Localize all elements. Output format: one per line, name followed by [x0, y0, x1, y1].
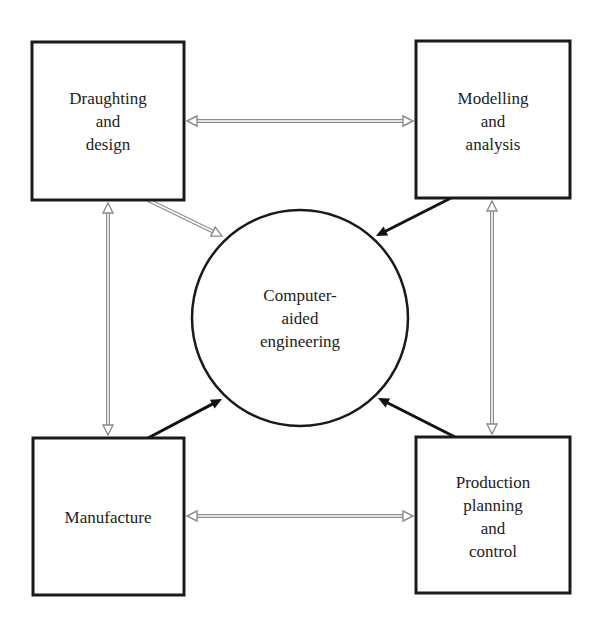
arrow-manufacture-to-production: [187, 511, 413, 521]
label-line: and: [96, 112, 121, 131]
label-line: Production: [456, 473, 531, 492]
label-line: planning: [463, 496, 523, 515]
arrow-draughting-to-manufacture: [103, 203, 113, 435]
arrow-head-hollow: [403, 511, 413, 521]
node-computer-aided-engineering[interactable]: Computer-aidedengineering: [192, 210, 408, 426]
arrow-head-hollow: [487, 201, 497, 211]
arrow-shaft: [385, 198, 451, 231]
node-manufacture[interactable]: Manufacture: [33, 438, 184, 595]
arrow-modelling-to-cae: [376, 198, 451, 236]
node-production-planning-and-control[interactable]: Productionplanningandcontrol: [416, 437, 570, 593]
label-line: analysis: [466, 135, 521, 154]
label-line: Modelling: [458, 89, 529, 108]
arrow-head-hollow: [487, 424, 497, 434]
node-box: [416, 437, 570, 593]
node-label: Manufacture: [65, 508, 152, 527]
label-line: engineering: [260, 332, 341, 351]
node-draughting-and-design[interactable]: Draughtinganddesign: [32, 42, 184, 200]
label-line: and: [481, 519, 506, 538]
arrow-draughting-to-modelling: [187, 116, 413, 126]
arrow-head-hollow: [103, 425, 113, 435]
label-line: and: [481, 112, 506, 131]
arrow-modelling-to-production: [487, 201, 497, 434]
arrow-manufacture-to-cae: [148, 399, 222, 438]
label-line: Computer-: [263, 286, 337, 305]
arrow-head-hollow: [187, 511, 197, 521]
arrow-head-hollow: [103, 203, 113, 213]
node-modelling-and-analysis[interactable]: Modellingandanalysis: [416, 41, 570, 198]
label-line: design: [86, 135, 131, 154]
label-line: Draughting: [69, 89, 147, 108]
nodes-layer: Draughtinganddesign Modellingandanalysis…: [32, 41, 570, 595]
cae-diagram: Draughtinganddesign Modellingandanalysis…: [0, 0, 601, 635]
arrow-shaft: [387, 403, 455, 437]
label-line: Manufacture: [65, 508, 152, 527]
arrow-shaft: [148, 200, 214, 232]
label-line: control: [469, 542, 517, 561]
arrow-head-hollow: [211, 227, 222, 236]
arrow-production-to-cae: [378, 398, 455, 437]
arrow-shaft: [148, 404, 213, 438]
arrow-head-hollow: [403, 116, 413, 126]
arrow-draughting-to-cae: [148, 200, 222, 236]
label-line: aided: [282, 309, 319, 328]
arrow-head-hollow: [187, 116, 197, 126]
